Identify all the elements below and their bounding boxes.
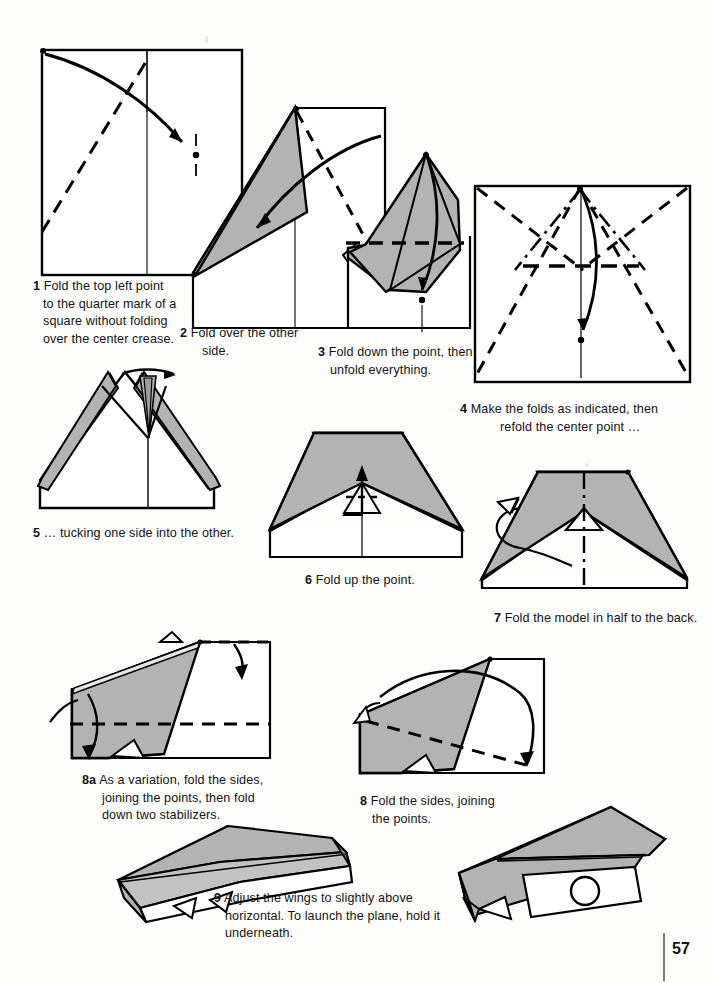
step-number-1: 1 xyxy=(33,279,40,293)
caption-step-5: 5 … tucking one side into the other. xyxy=(33,525,263,543)
scan-speck xyxy=(205,36,208,43)
step-number-8a: 8a xyxy=(82,773,96,787)
diagram-step-7 xyxy=(462,438,710,590)
step-text-9-line-3: underneath. xyxy=(225,925,474,943)
step-text-2-line-1: Fold over the other xyxy=(191,326,299,340)
step-text-3-line-1: Fold down the point, then xyxy=(329,345,473,359)
step-number-4: 4 xyxy=(460,402,467,416)
step-number-3: 3 xyxy=(318,345,325,359)
step-number-6: 6 xyxy=(305,573,312,587)
caption-step-8a: 8a As a variation, fold the sides, joini… xyxy=(82,772,292,825)
step-text-8a-line-1: As a variation, fold the sides, xyxy=(99,773,263,787)
step-text-6-line-1: Fold up the point. xyxy=(316,573,415,587)
step-number-9: 9 xyxy=(214,891,221,905)
step-text-9-line-2: horizontal. To launch the plane, hold it xyxy=(225,908,474,926)
caption-step-1: 1 Fold the top left point to the quarter… xyxy=(33,278,198,348)
diagram-step-6 xyxy=(262,425,487,560)
step-text-4-line-1: Make the folds as indicated, then xyxy=(471,402,658,416)
caption-step-7: 7 Fold the model in half to the back. xyxy=(494,610,714,628)
step-number-2: 2 xyxy=(180,326,187,340)
step-text-8-line-2: the points. xyxy=(372,811,540,829)
caption-step-2: 2 Fold over the other side. xyxy=(180,325,340,360)
step-text-1-line-1: Fold the top left point xyxy=(44,279,164,293)
instruction-page: 1 Fold the top left point to the quarter… xyxy=(0,0,714,983)
step-text-3-line-2: unfold everything. xyxy=(330,362,498,380)
caption-step-6: 6 Fold up the point. xyxy=(305,572,485,590)
scan-speck xyxy=(300,836,303,839)
page-number: 57 xyxy=(672,940,690,958)
page-edge-rule xyxy=(663,933,665,981)
step-text-1-line-3: square without folding xyxy=(43,313,198,331)
step-text-9-line-1: Adjust the wings to slightly above xyxy=(224,891,413,905)
caption-step-3: 3 Fold down the point, then unfold every… xyxy=(318,344,498,379)
caption-step-8: 8 Fold the sides, joining the points. xyxy=(360,793,540,828)
step-text-5-line-1: … tucking one side into the other. xyxy=(44,526,234,540)
step-text-7-line-1: Fold the model in half to the back. xyxy=(505,611,698,625)
step-text-1-line-2: to the quarter mark of a xyxy=(43,296,198,314)
caption-step-9: 9 Adjust the wings to slightly above hor… xyxy=(214,890,474,943)
step-text-8-line-1: Fold the sides, joining xyxy=(371,794,495,808)
step-number-7: 7 xyxy=(494,611,501,625)
step-text-1-line-4: over the center crease. xyxy=(43,331,198,349)
scan-speck xyxy=(585,463,589,467)
step-text-4-line-2: refold the center point … xyxy=(500,419,700,437)
step-text-8a-line-2: joining the points, then fold xyxy=(102,790,292,808)
step-number-5: 5 xyxy=(33,526,40,540)
caption-step-4: 4 Make the folds as indicated, then refo… xyxy=(460,401,700,436)
diagram-step-8a xyxy=(48,628,298,773)
step-number-8: 8 xyxy=(360,794,367,808)
step-text-8a-line-3: down two stabilizers. xyxy=(102,807,292,825)
diagram-step-5 xyxy=(18,368,233,520)
diagram-step-8 xyxy=(330,645,580,790)
